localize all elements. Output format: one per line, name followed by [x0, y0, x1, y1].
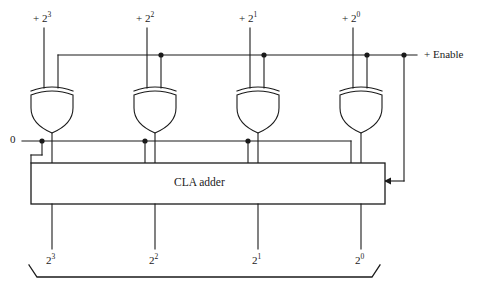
zero-drop-bit3 [31, 141, 42, 163]
input-label-bit3-base: + 2 [33, 12, 47, 24]
enable-label: + Enable [424, 49, 464, 60]
output-label-bit3-exponent: 3 [52, 252, 56, 261]
input-label-bit1: + 21 [239, 13, 257, 24]
input-label-bit0: + 20 [342, 13, 360, 24]
output-label-bit3: 23 [46, 255, 55, 266]
output-label-bit1-exponent: 1 [258, 252, 262, 261]
output-bus-bracket [29, 265, 380, 277]
xor-gate-bit1-shape [237, 87, 279, 163]
enable-bus-line [58, 55, 417, 88]
input-label-bit2-base: + 2 [136, 12, 150, 24]
input-label-bit2-exponent: 2 [150, 10, 154, 19]
circuit-diagram: + 23 + 22 + 21 + 20 + Enable 0 CLA adder… [0, 0, 481, 294]
output-label-bit1: 21 [252, 255, 261, 266]
input-label-bit1-base: + 2 [239, 12, 253, 24]
circuit-schematic-canvas [0, 0, 481, 294]
output-label-bit2: 22 [149, 255, 158, 266]
zero-label: 0 [10, 134, 16, 145]
input-label-bit1-exponent: 1 [253, 10, 257, 19]
cla-adder-label: CLA adder [174, 177, 225, 189]
xor-gate-bit0-shape [340, 87, 382, 163]
output-label-bit2-exponent: 2 [155, 252, 159, 261]
output-label-bit0-exponent: 0 [361, 252, 365, 261]
input-label-bit2: + 22 [136, 13, 154, 24]
zero-bus-line [22, 141, 351, 163]
output-label-bit0: 20 [355, 255, 364, 266]
xor-gate-bit2-shape [134, 87, 176, 163]
xor-gate-bit3-shape [31, 87, 73, 163]
input-label-bit3: + 23 [33, 13, 51, 24]
input-label-bit3-exponent: 3 [47, 10, 51, 19]
input-label-bit0-exponent: 0 [356, 10, 360, 19]
input-label-bit0-base: + 2 [342, 12, 356, 24]
enable-carry-in-path [385, 55, 404, 181]
